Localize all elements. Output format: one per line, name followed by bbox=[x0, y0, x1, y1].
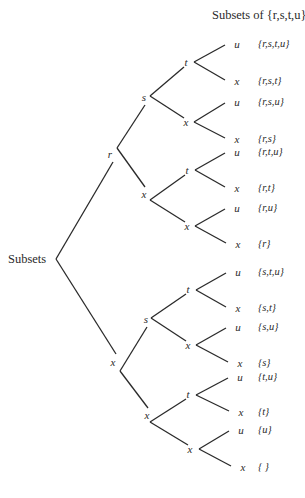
edge-l2-to-l3 bbox=[150, 422, 188, 445]
subset-result: {r,t} bbox=[258, 183, 275, 194]
edge-l3-to-leaf bbox=[194, 103, 225, 122]
leaf-label-u: u bbox=[234, 97, 240, 108]
edge-root-to-r bbox=[56, 162, 113, 259]
node-label-s: s bbox=[144, 314, 148, 325]
leaf-label-x: x bbox=[235, 183, 240, 194]
edge-l3-to-leaf bbox=[195, 226, 226, 243]
edge-l2-to-l3 bbox=[150, 67, 184, 96]
edge-l2-to-l3 bbox=[151, 294, 186, 318]
leaf-label-u: u bbox=[234, 39, 240, 50]
node-label-s: s bbox=[142, 92, 146, 103]
subset-result: {r,s,u} bbox=[258, 97, 284, 108]
leaf-label-u: u bbox=[237, 372, 243, 383]
edge-l3-to-leaf bbox=[196, 290, 226, 307]
edge-l2-to-l3 bbox=[150, 399, 186, 422]
edge-l3-to-leaf bbox=[196, 328, 226, 345]
edge-l3-to-leaf bbox=[195, 170, 225, 187]
edge-l2-to-l3 bbox=[150, 96, 184, 118]
edge-l1-to-l2 bbox=[120, 327, 147, 371]
root-label: Subsets bbox=[8, 253, 46, 266]
edge-root-to-x bbox=[56, 259, 116, 354]
node-label-t: t bbox=[184, 57, 187, 68]
edge-l3-to-leaf bbox=[194, 62, 225, 80]
leaf-label-u: u bbox=[235, 322, 241, 333]
edge-l2-to-l3 bbox=[150, 200, 185, 222]
leaf-label-x: x bbox=[236, 303, 241, 314]
edge-l1-to-l2 bbox=[120, 371, 148, 408]
diagram-title: Subsets of {r,s,t,u} bbox=[212, 9, 305, 22]
edge-l3-to-leaf bbox=[194, 45, 225, 62]
node-label-t: t bbox=[186, 389, 189, 400]
leaf-label-u: u bbox=[238, 425, 244, 436]
edge-l1-to-l2 bbox=[117, 148, 145, 187]
leaf-label-x: x bbox=[235, 76, 240, 87]
edge-l3-to-leaf bbox=[194, 122, 225, 138]
subset-result: {s} bbox=[258, 358, 270, 369]
leaf-label-x: x bbox=[241, 462, 246, 473]
node-label-x: x bbox=[142, 189, 147, 200]
leaf-label-x: x bbox=[236, 239, 241, 250]
subset-result: { } bbox=[258, 462, 269, 473]
leaf-label-x: x bbox=[239, 407, 244, 418]
subset-result: {r,s} bbox=[258, 134, 276, 145]
node-label-x: x bbox=[145, 410, 150, 421]
node-label-x: x bbox=[111, 357, 116, 368]
subset-result: {r,t,u} bbox=[258, 147, 283, 158]
leaf-label-u: u bbox=[234, 147, 240, 158]
edge-l1-to-l2 bbox=[117, 105, 145, 148]
edge-l2-to-l3 bbox=[150, 175, 185, 200]
node-label-t: t bbox=[186, 284, 189, 295]
edge-l3-to-leaf bbox=[196, 345, 228, 362]
node-label-x: x bbox=[188, 444, 193, 455]
node-label-r: r bbox=[108, 149, 112, 160]
subset-result: {t,u} bbox=[258, 372, 277, 383]
edge-l3-to-leaf bbox=[195, 153, 225, 170]
subset-result: {r} bbox=[258, 239, 270, 250]
edge-l3-to-leaf bbox=[199, 431, 229, 449]
leaf-label-x: x bbox=[238, 358, 243, 369]
subset-result: {r,s,t} bbox=[258, 76, 282, 87]
subset-result: {u} bbox=[258, 425, 272, 436]
subset-result: {s,t} bbox=[258, 303, 276, 314]
subset-result: {s,t,u} bbox=[258, 267, 284, 278]
node-label-x: x bbox=[185, 221, 190, 232]
node-label-x: x bbox=[184, 117, 189, 128]
leaf-label-u: u bbox=[234, 203, 240, 214]
subset-result: {t} bbox=[258, 407, 269, 418]
tree-edges bbox=[56, 45, 231, 466]
leaf-label-x: x bbox=[235, 134, 240, 145]
subset-result: {r,u} bbox=[258, 203, 277, 214]
edge-l3-to-leaf bbox=[196, 378, 228, 395]
node-label-x: x bbox=[186, 340, 191, 351]
edge-l3-to-leaf bbox=[196, 395, 229, 411]
edge-l3-to-leaf bbox=[195, 209, 225, 226]
subset-result: {r,s,t,u} bbox=[258, 39, 289, 50]
leaf-label-u: u bbox=[235, 267, 241, 278]
edge-l3-to-leaf bbox=[196, 273, 226, 290]
edge-l3-to-leaf bbox=[199, 449, 231, 466]
node-label-t: t bbox=[185, 165, 188, 176]
subset-result: {s,u} bbox=[258, 322, 278, 333]
edge-l2-to-l3 bbox=[151, 318, 186, 341]
